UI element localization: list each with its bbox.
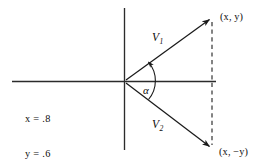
vector-v2-label: V2 [152,118,163,131]
point-label-xy: (x, y) [220,11,243,23]
value-y-label: y = .6 [25,148,51,160]
vector-diagram-figure: V1 V2 α (x, y) (x, −y) x = .8 y = .6 [0,0,267,167]
angle-alpha-label: α [143,84,149,96]
vector-v1-label: V1 [152,31,163,44]
coordinate-values-block: x = .8 y = .6 [25,90,51,167]
point-label-x-neg-y: (x, −y) [219,146,248,158]
vector-v1-line [126,20,210,81]
vector-v1-subscript: 1 [159,37,163,46]
angle-arc [149,62,156,100]
value-x-label: x = .8 [25,113,51,125]
vector-v2-line [126,83,210,147]
vector-v2-subscript: 2 [159,124,163,133]
